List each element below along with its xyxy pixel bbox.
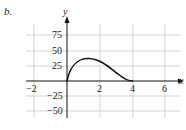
x-axis-label: x (179, 75, 183, 86)
y-tick-50: 50 (52, 45, 62, 56)
y-tick-neg50: −50 (47, 105, 63, 116)
y-tick-neg25: −25 (47, 90, 63, 101)
y-tick-25: 25 (52, 60, 62, 71)
y-axis-arrow-icon (65, 16, 70, 23)
x-tick-6: 6 (162, 83, 167, 94)
x-tick-2: 2 (97, 83, 102, 94)
y-tick-75: 75 (52, 29, 62, 40)
y-axis-label: y (63, 6, 67, 17)
chart-plot (0, 0, 186, 130)
axes (26, 22, 178, 118)
x-tick-4: 4 (130, 83, 135, 94)
grid (26, 24, 180, 118)
x-tick-neg2: −2 (26, 83, 37, 94)
